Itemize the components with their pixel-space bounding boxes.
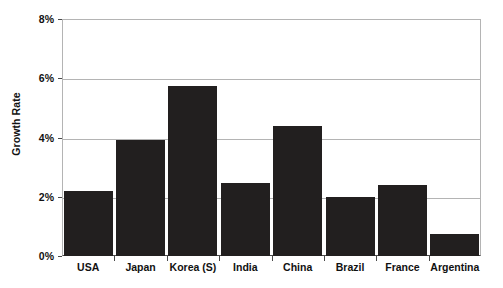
bar — [378, 185, 427, 256]
x-tick-label: Japan — [125, 261, 155, 273]
y-tick-mark — [58, 256, 62, 257]
bar — [168, 86, 217, 256]
bar — [221, 183, 270, 256]
y-tick-label: 4% — [8, 132, 54, 144]
x-tick-label: Argentina — [430, 261, 479, 273]
bar — [116, 140, 165, 256]
y-tick-label: 0% — [8, 250, 54, 262]
x-tick-label: China — [283, 261, 312, 273]
x-tick-mark — [272, 256, 273, 261]
bar — [273, 126, 322, 256]
x-tick-mark — [219, 256, 220, 261]
x-tick-label: France — [385, 261, 419, 273]
x-tick-label: USA — [77, 261, 99, 273]
x-tick-mark — [324, 256, 325, 261]
y-tick-label: 6% — [8, 72, 54, 84]
x-tick-label: Korea (S) — [170, 261, 217, 273]
x-tick-mark — [376, 256, 377, 261]
y-axis-title: Growth Rate — [10, 74, 22, 174]
growth-rate-bar-chart: Growth Rate 0%2%4%6%8% USAJapanKorea (S)… — [0, 0, 503, 288]
bars-layer — [62, 19, 481, 256]
bar — [64, 191, 113, 256]
x-tick-mark — [114, 256, 115, 261]
x-tick-label: India — [233, 261, 258, 273]
bar — [326, 197, 375, 256]
x-tick-mark — [167, 256, 168, 261]
y-tick-label: 2% — [8, 191, 54, 203]
bar — [430, 234, 479, 256]
x-tick-label: Brazil — [336, 261, 365, 273]
y-tick-label: 8% — [8, 13, 54, 25]
